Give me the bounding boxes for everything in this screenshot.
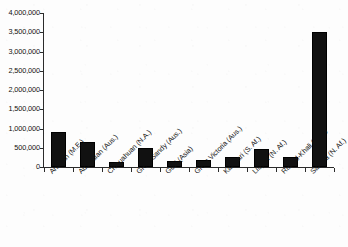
y-axis-tick-mark (40, 109, 44, 110)
y-axis-tick-mark (40, 90, 44, 91)
bar-chart: 4,000,0003,500,0003,000,0002,500,0002,00… (0, 0, 348, 247)
y-axis-tick-label: 1,000,000 (0, 125, 40, 132)
x-axis-category-labels: Arabian (M.E.)Australian (Aus.)Chihuahua… (0, 170, 348, 247)
x-axis-tick-mark (44, 168, 45, 172)
x-axis-tick-mark (276, 168, 277, 172)
x-axis-tick-mark (334, 168, 335, 172)
y-axis-tick-mark (40, 71, 44, 72)
y-axis-tick-mark (40, 32, 44, 33)
x-axis-tick-mark (189, 168, 190, 172)
y-axis-tick-label: 2,500,000 (0, 67, 40, 74)
x-axis-tick-mark (73, 168, 74, 172)
y-axis-tick-mark (40, 129, 44, 130)
x-axis-tick-mark (131, 168, 132, 172)
x-axis-tick-mark (247, 168, 248, 172)
y-axis-tick-label: 3,500,000 (0, 29, 40, 36)
y-axis-tick-label: 3,000,000 (0, 48, 40, 55)
y-axis-tick-mark (40, 148, 44, 149)
y-axis-tick-label: 4,000,000 (0, 9, 40, 16)
y-axis-tick-mark (40, 52, 44, 53)
plot-area (44, 13, 334, 167)
y-axis-tick-label: 2,000,000 (0, 86, 40, 93)
x-axis-tick-mark (160, 168, 161, 172)
y-axis-tick-mark (40, 13, 44, 14)
y-axis-tick-mark (40, 167, 44, 168)
x-axis-tick-mark (102, 168, 103, 172)
x-axis-tick-mark (218, 168, 219, 172)
y-axis-tick-label: 1,500,000 (0, 106, 40, 113)
y-axis-tick-label: 500,000 (0, 144, 40, 151)
x-axis-tick-mark (305, 168, 306, 172)
